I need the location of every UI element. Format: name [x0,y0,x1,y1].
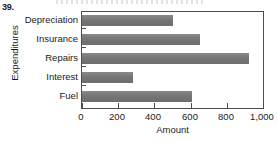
bar-depreciation [82,15,173,26]
x-tick-800 [227,103,228,108]
x-tick-600 [191,103,192,108]
y-tick-3 [82,66,86,67]
x-tick-1000 [263,103,264,108]
bar-interest [82,72,133,83]
x-tick-label-400: 400 [145,111,161,122]
category-label-fuel: Fuel [18,90,78,101]
x-tick-400 [154,103,155,108]
bar-chart: Expenditures Depreciation Insurance Repa… [0,0,278,142]
y-tick-4 [82,85,86,86]
category-axis-labels: Depreciation Insurance Repairs Interest … [18,11,78,109]
bar-repairs [82,53,249,64]
x-tick-0 [82,103,83,108]
x-tick-label-800: 800 [218,111,234,122]
category-label-depreciation: Depreciation [18,14,78,25]
x-axis-tick-labels: 0 200 400 600 800 1,000 [81,111,264,123]
y-tick-1 [82,28,86,29]
x-tick-label-0: 0 [78,111,83,122]
plot-area [81,11,264,109]
x-tick-200 [118,103,119,108]
y-tick-2 [82,47,86,48]
category-label-interest: Interest [18,71,78,82]
bar-insurance [82,34,200,45]
x-tick-label-1000: 1,000 [250,111,274,122]
category-label-repairs: Repairs [18,52,78,63]
category-label-insurance: Insurance [18,33,78,44]
bar-fuel [82,91,192,102]
x-axis-title: Amount [81,124,264,135]
x-tick-label-600: 600 [182,111,198,122]
x-tick-label-200: 200 [109,111,125,122]
